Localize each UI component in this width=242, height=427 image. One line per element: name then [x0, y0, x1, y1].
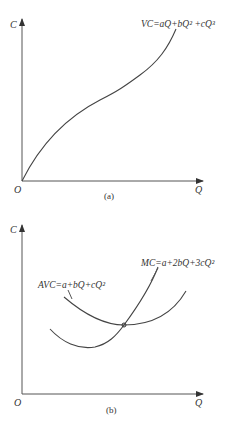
- vc-curve: [22, 29, 176, 181]
- vc-label: VC=aQ+bQ² +cQ³: [141, 19, 215, 29]
- mc-leader: [151, 268, 158, 281]
- y-axis-label-b: C: [10, 224, 17, 235]
- cost-curves-diagram: C O Q VC=aQ+bQ² +cQ³ (a) C O Q AVC=a+bQ+…: [0, 0, 242, 427]
- origin-label-b: O: [14, 397, 21, 408]
- caption-b: (b): [106, 405, 117, 415]
- avc-leader: [68, 290, 72, 299]
- x-axis-label-b: Q: [195, 397, 203, 408]
- panel-b: C O Q AVC=a+bQ+cQ² MC=a+2bQ+3cQ² (b): [10, 224, 214, 415]
- caption-a: (a): [104, 191, 114, 201]
- origin-label-a: O: [14, 184, 21, 195]
- avc-label: AVC=a+bQ+cQ²: [37, 280, 105, 290]
- avc-curve: [64, 291, 186, 325]
- panel-a: C O Q VC=aQ+bQ² +cQ³ (a): [10, 19, 215, 201]
- mc-label: MC=a+2bQ+3cQ²: [140, 258, 214, 268]
- y-axis-label-a: C: [10, 19, 17, 30]
- x-axis-label-a: Q: [195, 184, 203, 195]
